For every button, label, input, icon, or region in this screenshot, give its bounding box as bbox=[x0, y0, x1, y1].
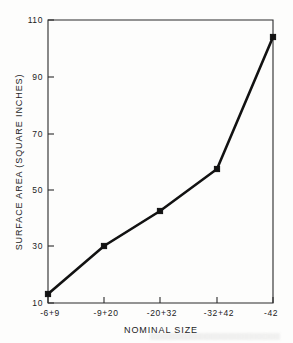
y-tick-label-70: 70 bbox=[32, 129, 43, 139]
x-tick-marks bbox=[48, 297, 273, 303]
y-tick-label-10: 10 bbox=[32, 298, 43, 308]
scan-artifact bbox=[150, 333, 280, 340]
data-point-2 bbox=[101, 243, 106, 248]
y-tick-label-30: 30 bbox=[32, 241, 43, 251]
data-point-3 bbox=[157, 208, 162, 213]
y-tick-label-50: 50 bbox=[32, 185, 43, 195]
y-tick-label-90: 90 bbox=[32, 72, 43, 82]
x-tick-label-5: -42 bbox=[264, 308, 278, 318]
y-tick-label-110: 110 bbox=[28, 15, 43, 25]
x-tick-label-3: -20+32 bbox=[147, 308, 177, 318]
x-tick-label-1: -6+9 bbox=[40, 308, 60, 318]
y-tick-marks bbox=[48, 20, 54, 303]
data-point-4 bbox=[214, 166, 219, 171]
x-tick-label-2: -9+20 bbox=[94, 308, 119, 318]
data-point-5 bbox=[270, 34, 275, 39]
data-markers bbox=[45, 34, 275, 296]
data-point-1 bbox=[45, 291, 50, 296]
x-tick-label-4: -32+42 bbox=[204, 308, 234, 318]
y-axis-title: SURFACE AREA (SQUARE INCHES) bbox=[14, 74, 24, 251]
data-series-line bbox=[48, 37, 273, 294]
plot-frame bbox=[48, 20, 273, 303]
chart-figure: 110 90 70 50 30 10 -6+9 -9+20 -20+32 -32… bbox=[0, 0, 293, 343]
line-chart: 110 90 70 50 30 10 -6+9 -9+20 -20+32 -32… bbox=[0, 0, 293, 343]
